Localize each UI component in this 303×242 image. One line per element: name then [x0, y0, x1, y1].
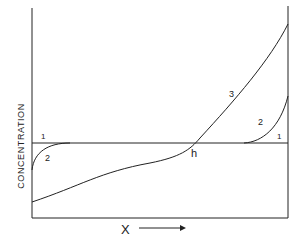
curve-2-left-label: 2 — [45, 153, 50, 163]
curve-3-label: 3 — [229, 89, 234, 99]
right-arrow-icon — [180, 225, 186, 231]
curve-3 — [32, 24, 288, 202]
curve-1-right-label: 1 — [277, 132, 282, 141]
curve-1-left-label: 1 — [41, 132, 46, 141]
curve-2-left — [32, 143, 70, 170]
concentration-diagram: 1 1 2 2 3 h CONCENTRATION X — [0, 0, 303, 242]
x-axis-label: X — [121, 222, 130, 237]
curve-2-right-label: 2 — [258, 117, 263, 127]
y-axis-label: CONCENTRATION — [16, 103, 26, 189]
intersection-label: h — [191, 147, 197, 159]
